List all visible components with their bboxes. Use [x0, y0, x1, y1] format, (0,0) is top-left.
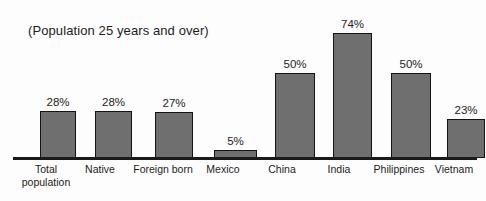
bar [155, 112, 193, 158]
bar-value-label: 5% [227, 135, 244, 147]
bar-group: 50% [391, 8, 431, 158]
category-label: Total population [12, 163, 80, 188]
bar [333, 33, 372, 158]
category-label: India [308, 163, 370, 176]
bar-group: 23% [447, 8, 485, 158]
bar-chart: (Population 25 years and over) 28%28%27%… [0, 0, 486, 201]
bar-value-label: 74% [341, 18, 364, 30]
bar-group: 28% [40, 8, 76, 158]
category-label: Foreign born [128, 163, 198, 176]
bar-group: 27% [155, 8, 193, 158]
category-label: Philippines [362, 163, 436, 176]
category-label: Mexico [192, 163, 254, 176]
bar [95, 111, 132, 158]
bar-value-label: 27% [162, 97, 185, 109]
category-label: Vietnam [426, 163, 482, 176]
plot-area: 28%28%27%5%50%74%50%23% [13, 8, 477, 158]
bar-value-label: 23% [454, 104, 477, 116]
bar-group: 5% [214, 8, 257, 158]
bar-group: 74% [333, 8, 372, 158]
category-label: Native [74, 163, 126, 176]
bar-value-label: 50% [283, 58, 306, 70]
bar [447, 119, 485, 158]
bar [275, 73, 315, 158]
bar-group: 50% [275, 8, 315, 158]
x-axis-line [13, 157, 477, 160]
bar-value-label: 50% [399, 58, 422, 70]
category-label-row: Total populationNativeForeign bornMexico… [0, 163, 486, 201]
bar-group: 28% [95, 8, 132, 158]
bar-value-label: 28% [102, 96, 125, 108]
bar-value-label: 28% [46, 96, 69, 108]
bar [391, 73, 431, 158]
bar [40, 111, 76, 158]
category-label: China [250, 163, 314, 176]
